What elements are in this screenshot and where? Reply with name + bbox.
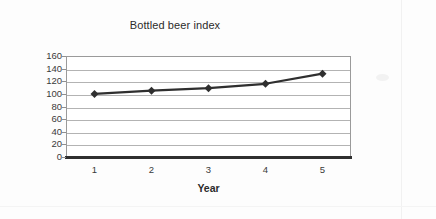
gridline	[67, 82, 350, 83]
y-tick-label: 0	[16, 152, 62, 162]
x-tick-label: 4	[246, 165, 286, 175]
scan-page-edge-bottom	[0, 206, 436, 207]
y-tick-label: 20	[16, 139, 62, 149]
gridline	[67, 108, 350, 109]
x-tick-label: 5	[303, 165, 343, 175]
x-axis-line	[65, 156, 352, 159]
x-tick-label: 1	[75, 165, 115, 175]
scan-smudge	[376, 74, 389, 81]
y-tick-mark	[62, 132, 66, 133]
y-tick-mark	[62, 107, 66, 108]
y-tick-label: 120	[16, 76, 62, 86]
y-tick-label: 80	[16, 102, 62, 112]
x-tick-label: 3	[189, 165, 229, 175]
y-tick-mark	[62, 69, 66, 70]
y-tick-label: 140	[16, 64, 62, 74]
scan-page-edge	[401, 0, 402, 219]
y-tick-mark	[62, 81, 66, 82]
y-tick-mark	[62, 144, 66, 145]
x-axis-title: Year	[66, 182, 351, 194]
y-axis-labels: 020406080100120140160	[12, 0, 62, 219]
x-tick-label: 2	[132, 165, 172, 175]
y-tick-mark	[62, 56, 66, 57]
gridline	[67, 95, 350, 96]
y-tick-label: 160	[16, 51, 62, 61]
y-tick-mark	[62, 119, 66, 120]
y-tick-mark	[62, 157, 66, 158]
y-tick-label: 60	[16, 114, 62, 124]
gridline	[67, 120, 350, 121]
y-tick-label: 100	[16, 89, 62, 99]
chart-figure: Bottled beer index 020406080100120140160…	[0, 0, 436, 219]
y-tick-mark	[62, 94, 66, 95]
y-tick-label: 40	[16, 127, 62, 137]
gridline	[67, 145, 350, 146]
plot-area	[66, 56, 351, 157]
gridline	[67, 70, 350, 71]
gridline	[67, 133, 350, 134]
